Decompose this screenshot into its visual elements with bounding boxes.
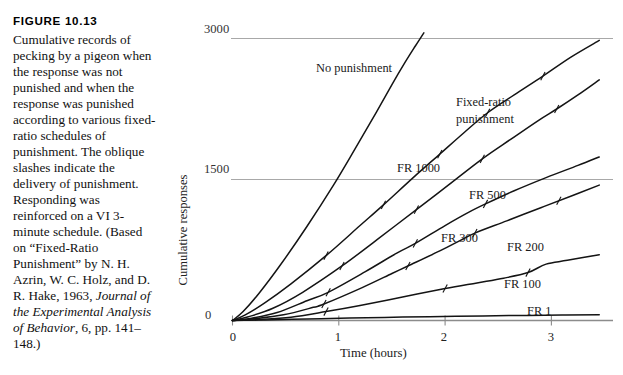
slash-mark-1-0	[324, 252, 328, 260]
slash-mark-1-1	[381, 201, 385, 209]
curve-fr-300	[233, 157, 600, 321]
y-tick-label-1500: 1500	[204, 162, 229, 177]
slash-mark-1-4	[541, 72, 545, 80]
x-axis-title: Time (hours)	[340, 346, 407, 361]
x-tick-label-0: 0	[226, 330, 240, 345]
x-tick-label-3: 3	[544, 330, 558, 345]
y-tick-label-3000: 3000	[204, 22, 229, 37]
x-tick-label-2: 2	[437, 330, 451, 345]
curve-label-fr-1000: FR 1000	[397, 161, 440, 176]
slash-mark-1-2	[438, 150, 442, 158]
curve-label-fr-100: FR 100	[504, 277, 541, 292]
y-axis-title: Cumulative responses	[176, 160, 191, 300]
chart-canvas	[0, 0, 623, 375]
data-curves-group	[233, 33, 600, 321]
curve-label-fr-1: FR 1	[527, 304, 551, 319]
x-tick-label-1: 1	[331, 330, 345, 345]
curve-label-fr-500: FR 500	[469, 188, 506, 203]
curve-label-fixed-ratio-line2: punishment	[456, 112, 514, 127]
curve-fr-500	[233, 80, 600, 321]
curve-label-no-punishment: No punishment	[316, 61, 392, 76]
slash-mark-2-1	[414, 206, 418, 214]
figure-root: FIGURE 10.13 Cumulative records of pecki…	[0, 0, 623, 375]
curve-label-fixed-ratio-line1: Fixed-ratio	[456, 95, 511, 110]
cumulative-record-chart: 3000 1500 0 0 1 2 3 Time (hours) Cumulat…	[0, 0, 623, 375]
slash-mark-2-0	[340, 262, 344, 270]
slash-mark-2-2	[480, 155, 484, 163]
curve-label-fr-200: FR 200	[507, 240, 544, 255]
curve-fr-1000	[233, 40, 600, 320]
curve-no-punishment	[233, 33, 424, 321]
y-tick-label-0: 0	[205, 308, 211, 323]
slash-mark-2-3	[555, 105, 559, 113]
curve-label-fr-300: FR 300	[441, 231, 478, 246]
